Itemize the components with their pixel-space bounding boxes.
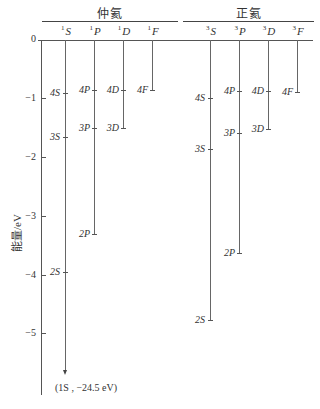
level-tick-t3D bbox=[266, 129, 271, 130]
level-tick-s4D bbox=[121, 90, 126, 91]
column-line-3S bbox=[210, 40, 211, 321]
column-line-1D bbox=[123, 40, 124, 128]
level-label-t3D: 3D bbox=[244, 123, 264, 134]
level-label-s4S: 4S bbox=[40, 87, 60, 98]
tick-label-minus1: −1 bbox=[20, 92, 36, 103]
ground-state-annotation: (1S , −24.5 eV) bbox=[55, 382, 117, 393]
level-tick-t3P bbox=[237, 133, 242, 134]
level-label-s3P: 3P bbox=[70, 122, 90, 133]
level-tick-s4S bbox=[63, 93, 68, 94]
level-tick-t2S bbox=[208, 320, 213, 321]
level-tick-s3D bbox=[121, 128, 126, 129]
level-label-s4P: 4P bbox=[70, 84, 90, 95]
level-label-t4P: 4P bbox=[215, 85, 235, 96]
level-tick-s4P bbox=[92, 90, 97, 91]
level-label-t2S: 2S bbox=[185, 314, 205, 325]
level-tick-s4F bbox=[150, 90, 155, 91]
column-line-1P bbox=[94, 40, 95, 234]
level-tick-s3P bbox=[92, 128, 97, 129]
level-tick-t4S bbox=[208, 98, 213, 99]
group-label-orthohelium: 正氦 bbox=[236, 4, 262, 22]
level-tick-s2S bbox=[63, 272, 68, 273]
tick-minus5 bbox=[41, 333, 46, 334]
level-tick-s2P bbox=[92, 234, 97, 235]
term-header-1P: 1P bbox=[89, 25, 100, 37]
arrow-down-icon bbox=[63, 370, 67, 375]
level-tick-t4F bbox=[295, 92, 300, 93]
level-label-s2P: 2P bbox=[70, 228, 90, 239]
level-label-s2S: 2S bbox=[40, 266, 60, 277]
tick-label-minus4: −4 bbox=[20, 269, 36, 280]
level-tick-s3S bbox=[63, 137, 68, 138]
level-label-s3D: 3D bbox=[99, 122, 119, 133]
level-label-t3S: 3S bbox=[185, 143, 205, 154]
level-label-t4F: 4F bbox=[273, 86, 293, 97]
level-label-t3P: 3P bbox=[215, 127, 235, 138]
level-tick-t4P bbox=[237, 91, 242, 92]
term-header-1S: 1S bbox=[61, 25, 71, 37]
group-label-parahelium: 仲氦 bbox=[97, 4, 123, 22]
level-label-s4F: 4F bbox=[128, 84, 148, 95]
tick-label-minus5: −5 bbox=[20, 327, 36, 338]
column-line-3D bbox=[268, 40, 269, 130]
y-axis-label: 能量/eV bbox=[8, 214, 24, 252]
term-header-3P: 3P bbox=[234, 25, 245, 37]
column-line-1S bbox=[65, 40, 66, 372]
level-label-t4D: 4D bbox=[244, 85, 264, 96]
group-bracket-right bbox=[183, 21, 314, 22]
zero-energy-line bbox=[38, 40, 313, 41]
group-bracket-left bbox=[42, 21, 178, 22]
level-label-s4D: 4D bbox=[99, 84, 119, 95]
level-tick-t3S bbox=[208, 149, 213, 150]
term-header-3D: 3D bbox=[263, 25, 275, 37]
tick-label-0: 0 bbox=[20, 33, 36, 44]
level-label-s3S: 3S bbox=[40, 131, 60, 142]
term-header-1D: 1D bbox=[118, 25, 130, 37]
level-tick-t4D bbox=[266, 91, 271, 92]
level-label-t4S: 4S bbox=[185, 92, 205, 103]
tick-minus1 bbox=[41, 98, 46, 99]
column-line-3P bbox=[239, 40, 240, 254]
term-header-3S: 3S bbox=[206, 25, 216, 37]
column-line-1F bbox=[152, 40, 153, 90]
tick-label-minus2: −2 bbox=[20, 151, 36, 162]
level-tick-t2P bbox=[237, 253, 242, 254]
level-label-t2P: 2P bbox=[215, 247, 235, 258]
term-header-3F: 3F bbox=[292, 25, 303, 37]
column-line-3F bbox=[297, 40, 298, 92]
tick-minus3 bbox=[41, 216, 46, 217]
term-header-1F: 1F bbox=[147, 25, 158, 37]
tick-minus2 bbox=[41, 157, 46, 158]
